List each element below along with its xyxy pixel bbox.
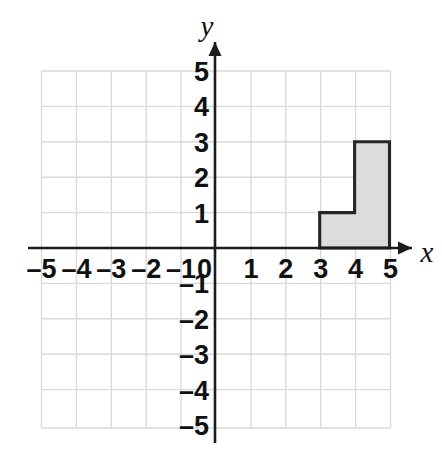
x-tick-label: 4 bbox=[348, 254, 363, 284]
y-axis-label: y bbox=[198, 10, 214, 42]
coordinate-plane-figure: –5 –4 –3 –2 –1 1 2 3 4 5 0 5 4 3 2 1 –1 … bbox=[0, 0, 442, 450]
y-axis-arrow-icon bbox=[209, 42, 222, 56]
x-tick-label: 5 bbox=[383, 254, 398, 284]
y-tick-label: –1 bbox=[179, 269, 209, 299]
x-tick-label: –4 bbox=[61, 254, 91, 284]
x-axis-arrow-icon bbox=[398, 242, 412, 255]
y-tick-label: 5 bbox=[194, 57, 209, 87]
x-tick-label: –5 bbox=[26, 254, 56, 284]
y-tick-label: 1 bbox=[194, 199, 209, 229]
x-tick-label: –3 bbox=[96, 254, 126, 284]
axis-names: y x bbox=[198, 10, 434, 268]
x-tick-label: 1 bbox=[243, 254, 258, 284]
y-tick-label: –5 bbox=[179, 411, 209, 441]
x-tick-label: 2 bbox=[278, 254, 293, 284]
x-axis-label: x bbox=[420, 236, 434, 268]
x-tick-label: –2 bbox=[131, 254, 161, 284]
shaded-step-polygon bbox=[320, 142, 390, 248]
y-tick-label: 3 bbox=[194, 128, 209, 158]
x-axis-tick-labels: –5 –4 –3 –2 –1 1 2 3 4 5 bbox=[26, 254, 398, 284]
y-tick-label: 2 bbox=[194, 163, 209, 193]
y-tick-label: –4 bbox=[179, 376, 209, 406]
x-tick-label: 3 bbox=[313, 254, 328, 284]
y-tick-label: 4 bbox=[194, 92, 209, 122]
shaded-step-polygon-path bbox=[320, 142, 390, 248]
y-tick-label: –2 bbox=[179, 305, 209, 335]
y-tick-label: –3 bbox=[179, 340, 209, 370]
coordinate-plane-svg: –5 –4 –3 –2 –1 1 2 3 4 5 0 5 4 3 2 1 –1 … bbox=[0, 0, 442, 450]
